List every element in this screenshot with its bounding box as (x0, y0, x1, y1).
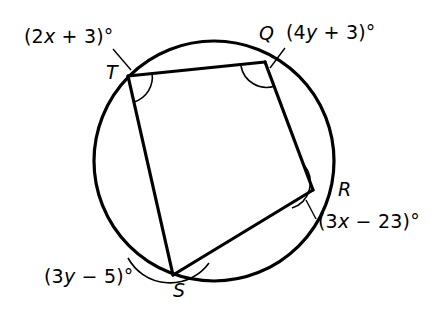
angle-label-S: (3y − 5)° (44, 267, 134, 286)
angle-label-Q-suffix: + 3)° (317, 21, 375, 43)
vertex-label-S: S (173, 281, 185, 300)
leader-line-Q (270, 48, 285, 68)
geometry-figure: (2x + 3)° (4y + 3)° (3x − 23)° (3y − 5)°… (0, 0, 442, 319)
vertex-label-Q: Q (259, 24, 274, 43)
angle-label-Q-prefix: (4 (286, 21, 306, 43)
angle-label-T-prefix: (2 (24, 25, 44, 47)
angle-label-S-variable: y (64, 265, 75, 287)
angle-arc-T (134, 73, 152, 102)
vertex-label-R: R (338, 180, 351, 199)
angle-label-S-suffix: − 5)° (75, 265, 133, 287)
angle-label-Q: (4y + 3)° (286, 23, 376, 42)
angle-label-T-suffix: + 3)° (55, 25, 113, 47)
side-ST (128, 76, 173, 275)
angle-label-R: (3x − 23)° (318, 212, 420, 231)
angle-label-R-variable: x (338, 210, 349, 232)
angle-label-S-prefix: (3 (44, 265, 64, 287)
angle-label-T-variable: x (44, 25, 55, 47)
side-QR (265, 62, 313, 190)
angle-label-R-suffix: − 23)° (349, 210, 420, 232)
vertex-label-T: T (106, 63, 118, 82)
angle-label-R-prefix: (3 (318, 210, 338, 232)
leader-line-R (306, 200, 316, 219)
side-RS (173, 190, 313, 275)
angle-label-T: (2x + 3)° (24, 27, 114, 46)
angle-label-Q-variable: y (306, 21, 317, 43)
